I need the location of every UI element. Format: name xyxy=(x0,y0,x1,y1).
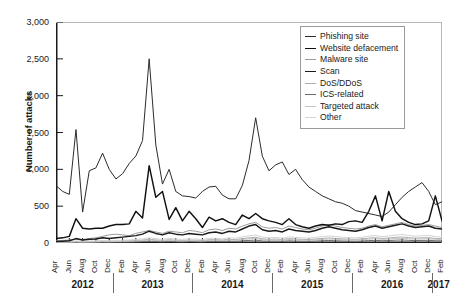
x-axis-tick-label: Dec xyxy=(104,259,112,273)
legend-item[interactable]: Scan xyxy=(305,66,398,78)
y-axis-tick-label: 2,000 xyxy=(26,91,49,100)
legend-item-label: Phishing site xyxy=(320,32,369,41)
y-axis-tick-label: 1,000 xyxy=(26,165,49,174)
y-axis-tick-label: 500 xyxy=(34,202,49,211)
x-axis-tick-label: Jun xyxy=(304,260,312,273)
x-axis-tick-label: Jun xyxy=(384,260,392,273)
y-axis-tick-label: 3,000 xyxy=(26,18,49,27)
x-axis-tick-label: Apr xyxy=(291,261,299,273)
x-axis-year-label: 2015 xyxy=(301,279,323,290)
legend-line-icon xyxy=(305,71,316,72)
x-axis-tick-label: Apr xyxy=(371,261,379,273)
chart-legend: Phishing siteWebsite defacementMalware s… xyxy=(300,26,405,129)
legend-item[interactable]: Malware site xyxy=(305,54,398,66)
x-axis-year-label: 2016 xyxy=(381,279,403,290)
legend-item[interactable]: DoS/DDoS xyxy=(305,77,398,89)
x-axis-tick-label: Feb xyxy=(437,259,445,273)
x-axis-year-label: 2017 xyxy=(428,279,450,290)
x-axis-tick-label: Apr xyxy=(131,261,139,273)
y-axis-tick-label: 2,500 xyxy=(26,54,49,63)
legend-line-icon xyxy=(305,117,316,118)
x-axis-tick-label: Aug xyxy=(238,259,246,273)
x-axis-tick-label: Dec xyxy=(264,259,272,273)
legend-item[interactable]: Targeted attack xyxy=(305,101,398,113)
x-axis-tick-label: Oct xyxy=(251,261,259,273)
legend-line-icon xyxy=(305,48,316,49)
legend-item-label: Website defacement xyxy=(320,44,398,53)
x-axis-tick-label: Apr xyxy=(211,261,219,273)
x-axis-year-label: 2014 xyxy=(221,279,243,290)
x-axis-year-separator xyxy=(272,273,273,293)
y-axis-tick-labels: 05001,0001,5002,0002,5003,000 xyxy=(0,0,56,300)
x-axis-year-separator xyxy=(113,273,114,293)
legend-item-label: Targeted attack xyxy=(320,102,379,111)
x-axis-tick-label: Feb xyxy=(198,259,206,273)
x-axis-tick-label: Jun xyxy=(65,260,73,273)
x-axis-year-label: 2013 xyxy=(141,279,163,290)
x-axis-tick-label: Oct xyxy=(171,261,179,273)
x-axis-tick-label: Dec xyxy=(184,259,192,273)
x-axis-tick-label: Aug xyxy=(397,259,405,273)
x-axis-tick-label: Aug xyxy=(317,259,325,273)
legend-item-label: Malware site xyxy=(320,55,368,64)
legend-line-icon xyxy=(305,59,316,60)
x-axis-year-separator xyxy=(192,273,193,293)
x-axis-tick-labels: AprJunAugOctDecFebAprJunAugOctDecFebAprJ… xyxy=(56,243,442,273)
y-axis-tick-label: 1,500 xyxy=(26,128,49,137)
legend-item[interactable]: Other xyxy=(305,112,398,124)
x-axis-tick-label: Dec xyxy=(424,259,432,273)
x-axis-tick-label: Apr xyxy=(51,261,59,273)
legend-line-icon xyxy=(305,106,316,107)
x-axis-tick-label: Oct xyxy=(331,261,339,273)
x-axis-tick-label: Oct xyxy=(91,261,99,273)
x-axis-tick-label: Jun xyxy=(224,260,232,273)
x-axis-tick-label: Feb xyxy=(277,259,285,273)
x-axis-tick-label: Aug xyxy=(78,259,86,273)
legend-item[interactable]: Website defacement xyxy=(305,43,398,55)
x-axis-tick-label: Feb xyxy=(118,259,126,273)
x-axis-tick-label: Oct xyxy=(411,261,419,273)
legend-item[interactable]: ICS-related xyxy=(305,89,398,101)
x-axis-year-label: 2012 xyxy=(71,279,93,290)
x-axis-year-separator xyxy=(432,273,433,293)
legend-line-icon xyxy=(305,94,316,95)
legend-item-label: Other xyxy=(320,113,342,122)
legend-line-icon xyxy=(305,83,316,84)
x-axis-tick-label: Dec xyxy=(344,259,352,273)
legend-item[interactable]: Phishing site xyxy=(305,31,398,43)
legend-line-icon xyxy=(305,36,316,37)
x-axis-tick-label: Aug xyxy=(158,259,166,273)
x-axis-year-band: 201220132014201520162017 xyxy=(56,275,442,297)
legend-item-label: Scan xyxy=(320,67,340,76)
legend-item-label: ICS-related xyxy=(320,90,363,99)
x-axis-year-separator xyxy=(352,273,353,293)
y-axis-tick-label: 0 xyxy=(44,239,49,248)
x-axis-tick-label: Jun xyxy=(144,260,152,273)
legend-item-label: DoS/DDoS xyxy=(320,79,362,88)
x-axis-tick-label: Feb xyxy=(357,259,365,273)
